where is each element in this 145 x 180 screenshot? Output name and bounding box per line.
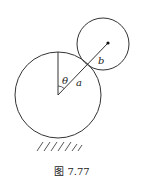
small-center-dot	[106, 41, 109, 44]
theta-label: θ	[62, 75, 68, 86]
b-label: b	[98, 55, 104, 66]
figure-canvas: θ a b 图 7.77	[0, 0, 145, 180]
figure-caption: 图 7.77	[54, 166, 89, 177]
a-label: a	[76, 77, 82, 88]
theta-angle-arc	[58, 86, 64, 89]
ground-hatching	[37, 142, 82, 151]
